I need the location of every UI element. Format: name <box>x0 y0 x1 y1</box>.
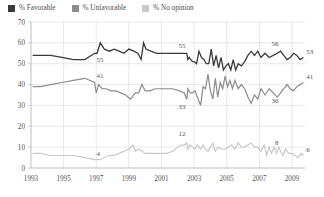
legend-label-no-opinion: % No opinion <box>153 5 193 12</box>
x-tick-label: 2003 <box>187 175 202 183</box>
data-value-label: 6 <box>306 146 310 154</box>
data-value-label: 12 <box>179 130 187 138</box>
y-tick-label: 10 <box>18 144 26 152</box>
x-tick-label: 1997 <box>89 175 104 183</box>
data-value-label: 33 <box>179 103 187 111</box>
legend-swatch-unfavorable <box>72 5 79 12</box>
favorability-line-chart: % Favorable % Unfavorable % No opinion 0… <box>0 0 324 197</box>
data-value-label: 41 <box>97 72 105 80</box>
data-value-label: 36 <box>272 97 280 105</box>
y-tick-label: 20 <box>18 123 26 131</box>
data-value-label: 53 <box>306 48 314 56</box>
data-value-label: 41 <box>306 73 314 81</box>
x-tick-label: 2009 <box>285 175 300 183</box>
y-tick-label: 40 <box>18 81 26 89</box>
chart-legend: % Favorable % Unfavorable % No opinion <box>8 2 210 16</box>
x-tick-label: 2001 <box>154 175 169 183</box>
series-line-favorable <box>33 43 304 70</box>
data-value-label: 56 <box>272 40 280 48</box>
y-tick-label: 60 <box>18 39 26 47</box>
x-tick-label: 1999 <box>122 175 137 183</box>
x-tick-label: 1993 <box>24 175 39 183</box>
legend-swatch-no-opinion <box>142 5 149 12</box>
y-tick-label: 0 <box>21 165 25 173</box>
x-tick-label: 2007 <box>252 175 267 183</box>
data-value-label: 8 <box>275 139 279 147</box>
legend-item-no-opinion[interactable]: % No opinion <box>142 5 193 12</box>
x-tick-label: 1995 <box>56 175 71 183</box>
legend-label-unfavorable: % Unfavorable <box>83 5 127 12</box>
series-line-unfavorable <box>33 74 304 105</box>
y-tick-label: 70 <box>18 19 26 27</box>
x-axis-tick-labels: 199319951997199920012003200520072009 <box>24 175 300 183</box>
y-tick-label: 30 <box>18 102 26 110</box>
data-series-group <box>33 43 304 160</box>
legend-item-favorable[interactable]: % Favorable <box>8 5 56 12</box>
y-axis-tick-labels: 010203040506070 <box>18 19 31 173</box>
plot-svg: 010203040506070 199319951997199920012003… <box>0 16 324 197</box>
legend-label-favorable: % Favorable <box>19 5 56 12</box>
y-tick-label: 50 <box>18 60 26 68</box>
plot-area: 010203040506070 199319951997199920012003… <box>0 16 324 197</box>
data-value-label: 55 <box>97 56 105 64</box>
series-line-no-opinion <box>33 143 304 160</box>
data-value-label: 4 <box>97 150 101 158</box>
x-tick-label: 2005 <box>220 175 235 183</box>
data-value-labels: 554143312555636853416 <box>97 40 314 157</box>
legend-item-unfavorable[interactable]: % Unfavorable <box>72 5 127 12</box>
legend-swatch-favorable <box>8 5 15 12</box>
data-value-label: 55 <box>179 42 187 50</box>
